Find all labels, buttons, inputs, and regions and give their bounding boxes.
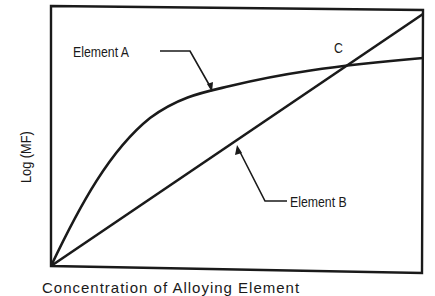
label-element-a: Element A	[73, 43, 129, 60]
leader-line-element-a	[160, 51, 211, 88]
leader-line-element-b	[239, 150, 287, 201]
label-point-c: C	[334, 39, 343, 56]
series-element-a-curve	[51, 58, 423, 266]
y-axis-label: Log (MF)	[17, 131, 34, 183]
x-axis-label: Concentration of Alloying Element	[42, 279, 300, 296]
label-element-b: Element B	[290, 193, 347, 210]
